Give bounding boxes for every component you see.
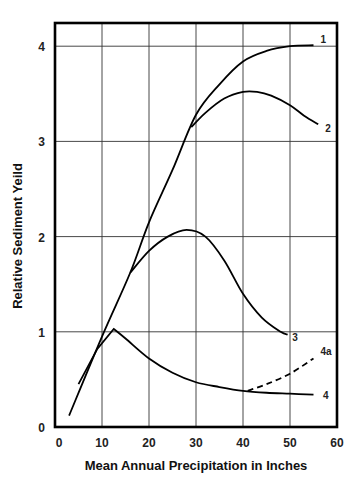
x-tick-label: 10 bbox=[95, 436, 109, 450]
series-line-2 bbox=[191, 91, 318, 127]
curve-label-4: 4 bbox=[323, 390, 329, 401]
curve-label-3: 3 bbox=[292, 332, 298, 343]
x-tick-label: 40 bbox=[236, 436, 250, 450]
x-tick-label: 30 bbox=[189, 436, 203, 450]
x-tick-label: 0 bbox=[56, 436, 63, 450]
y-tick-label: 3 bbox=[38, 135, 45, 149]
x-tick-label: 50 bbox=[283, 436, 297, 450]
y-tick-label: 1 bbox=[38, 326, 45, 340]
series-line-4a bbox=[248, 358, 314, 390]
x-tick-label: 20 bbox=[142, 436, 156, 450]
curve-label-2: 2 bbox=[325, 123, 331, 134]
y-tick-label: 2 bbox=[38, 231, 45, 245]
x-tick-label: 60 bbox=[330, 436, 344, 450]
curve-label-4a: 4a bbox=[321, 346, 333, 357]
curve-label-1: 1 bbox=[321, 34, 327, 45]
sediment-yield-chart: 010203040506001234 12344a Mean Annual Pr… bbox=[0, 0, 352, 483]
series-line-3 bbox=[130, 230, 287, 335]
curve-labels: 12344a bbox=[292, 34, 332, 400]
tick-labels: 010203040506001234 bbox=[38, 40, 344, 450]
grid-lines bbox=[55, 23, 337, 427]
data-series bbox=[69, 45, 318, 415]
x-axis-label: Mean Annual Precipitation in Inches bbox=[85, 458, 308, 473]
y-tick-label: 0 bbox=[38, 421, 45, 435]
y-tick-label: 4 bbox=[38, 40, 45, 54]
y-axis-label: Relative Sediment Yeild bbox=[10, 163, 25, 309]
